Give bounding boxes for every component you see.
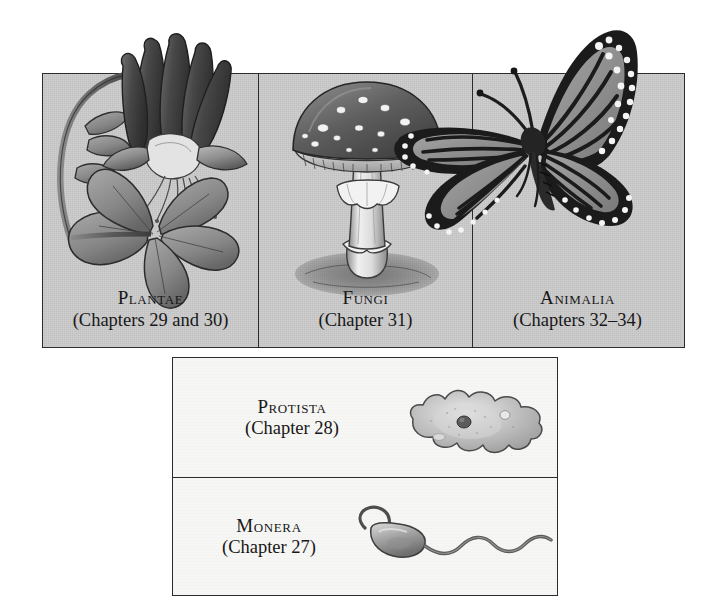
kingdom-name-plantae: Plantae <box>43 287 258 309</box>
kingdom-name-monera: Monera <box>197 515 341 537</box>
chapter-ref-fungi: (Chapter 31) <box>259 310 472 331</box>
kingdom-name-fungi: Fungi <box>259 287 472 309</box>
columbine-flower-illustration <box>37 28 267 313</box>
kingdom-cell-protista: Protista (Chapter 28) <box>173 358 557 478</box>
five-kingdoms-figure: Plantae (Chapters 29 and 30) <box>0 0 727 602</box>
caption-fungi: Fungi (Chapter 31) <box>259 287 472 331</box>
caption-monera: Monera (Chapter 27) <box>197 515 341 559</box>
lower-kingdom-stack: Protista (Chapter 28) <box>172 357 558 596</box>
kingdom-cell-monera: Monera (Chapter 27) <box>173 478 557 595</box>
chapter-ref-animalia: (Chapters 32–34) <box>473 310 682 331</box>
chapter-ref-protista: (Chapter 28) <box>197 418 387 439</box>
amoeba-illustration <box>401 375 551 461</box>
caption-animalia: Animalia (Chapters 32–34) <box>473 287 682 331</box>
kingdom-cell-fungi: Fungi (Chapter 31) <box>259 74 473 347</box>
caption-plantae: Plantae (Chapters 29 and 30) <box>43 287 258 331</box>
kingdom-name-animalia: Animalia <box>473 287 682 309</box>
kingdom-cell-plantae: Plantae (Chapters 29 and 30) <box>43 74 259 347</box>
top-kingdom-row: Plantae (Chapters 29 and 30) <box>42 73 685 348</box>
chapter-ref-monera: (Chapter 27) <box>197 537 341 558</box>
mushroom-illustration <box>275 66 459 316</box>
kingdom-cell-animalia: Animalia (Chapters 32–34) <box>473 74 682 347</box>
chapter-ref-plantae: (Chapters 29 and 30) <box>43 310 258 331</box>
flagellated-bacterium-illustration <box>347 498 557 576</box>
kingdom-name-protista: Protista <box>197 396 387 418</box>
caption-protista: Protista (Chapter 28) <box>197 396 387 440</box>
